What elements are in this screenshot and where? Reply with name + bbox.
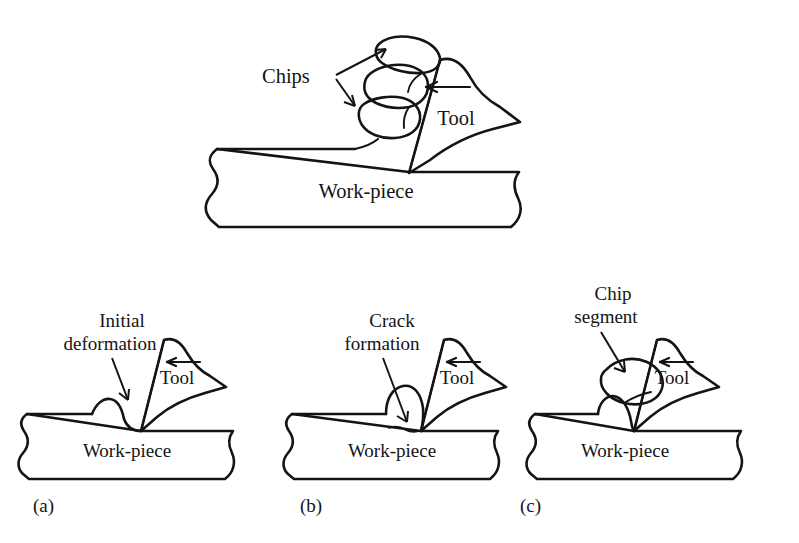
panel-crack-formation: Crack formation Tool Work-piece (b) (284, 310, 507, 517)
panel-c-tool-rake-face (634, 340, 657, 431)
top-chip-segment-2 (364, 65, 428, 108)
panel-a-callout-line1: Initial (99, 310, 144, 331)
figure-canvas: Chips Tool Work-piece (0, 0, 799, 543)
panel-b-arched-chip (386, 386, 423, 431)
panel-a-tag: (a) (33, 495, 54, 517)
top-chip-slip-line-1 (408, 73, 422, 92)
panel-c-chip-segment (601, 359, 663, 404)
panel-c-callout-arrow (601, 332, 625, 372)
chips-leader-upper (336, 49, 386, 75)
top-diagram: Chips Tool Work-piece (206, 37, 521, 227)
top-chip-slip-line-2 (404, 107, 409, 128)
panel-c-workpiece-label: Work-piece (581, 440, 669, 461)
panel-a-callout-arrow (112, 358, 129, 400)
top-workpiece-label: Work-piece (318, 180, 413, 203)
panel-b-tool-label: Tool (440, 367, 475, 388)
chip-formation-figure: Chips Tool Work-piece (0, 0, 799, 543)
panel-a-workpiece-label: Work-piece (83, 440, 171, 461)
panel-c-callout-shaft (601, 332, 625, 372)
top-shear-face (355, 139, 378, 149)
panel-c-tag: (c) (520, 495, 541, 517)
panel-chip-segment: Chip segment Tool Work-piece (c) (520, 283, 742, 517)
top-chips-label: Chips (262, 65, 310, 88)
panel-a-callout-line2: deformation (64, 333, 157, 354)
panel-b-callout-line1: Crack (369, 310, 415, 331)
panel-c-tool-label: Tool (655, 367, 690, 388)
panel-b-workpiece-label: Work-piece (348, 440, 436, 461)
panel-b-callout-line2: formation (345, 333, 420, 354)
panel-a-tool-label: Tool (160, 367, 195, 388)
top-feed-arrow (426, 82, 470, 92)
top-tool-label: Tool (437, 107, 475, 129)
panel-b-tag: (b) (300, 495, 322, 517)
panel-c-callout-line1: Chip (595, 283, 632, 304)
top-chip-segment-3 (359, 97, 420, 138)
panel-initial-deformation: Initial deformation Tool Work-piece (a) (19, 310, 234, 517)
panel-c-callout-line2: segment (574, 306, 638, 327)
